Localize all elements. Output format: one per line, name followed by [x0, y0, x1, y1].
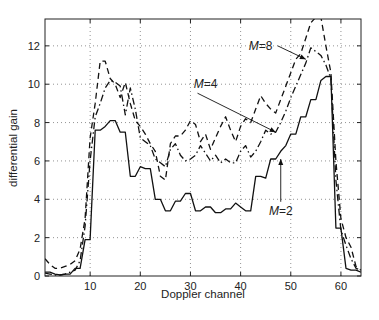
y-tick-label: 8: [34, 117, 40, 129]
annotation-label: M=4: [194, 77, 218, 91]
y-tick-label: 10: [28, 78, 40, 90]
annotation-label: M=8: [249, 39, 273, 53]
y-tick-label: 12: [28, 40, 40, 52]
grid-lines: [45, 19, 361, 276]
x-tick-label: 60: [335, 280, 347, 292]
x-tick-label: 10: [84, 280, 96, 292]
data-series: [45, 17, 361, 275]
annotations: M=8M=4M=2: [194, 39, 306, 218]
arrowhead-icon: [278, 159, 283, 165]
annotation-label: M=2: [269, 204, 293, 218]
x-tick-label: 20: [134, 280, 146, 292]
y-tick-label: 6: [34, 155, 40, 167]
y-tick-label: 0: [34, 270, 40, 282]
y-tick-label: 2: [34, 232, 40, 244]
x-axis-label: Doppler channel: [161, 288, 245, 300]
line-chart: 102030405060024681012 M=8M=4M=2 Doppler …: [0, 0, 379, 320]
annotation-arrow: [198, 93, 276, 132]
y-axis-label: differential gain: [7, 109, 19, 187]
y-tick-label: 4: [34, 193, 40, 205]
x-tick-label: 50: [285, 280, 297, 292]
series-line-m2: [45, 77, 361, 276]
